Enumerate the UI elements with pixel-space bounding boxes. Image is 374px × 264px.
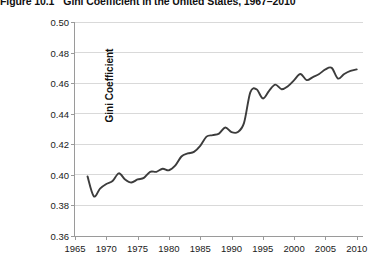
plot-area: Gini Coefficient 0.360.380.400.420.440.4… — [74, 22, 363, 237]
x-tick-label: 1995 — [252, 243, 273, 254]
x-tick-label: 2005 — [315, 243, 336, 254]
x-tick-label: 1970 — [96, 243, 117, 254]
y-tick-label: 0.48 — [51, 47, 70, 58]
x-tick-mark — [106, 236, 107, 240]
figure-number: Figure 10.1 — [0, 0, 54, 7]
x-tick-label: 2010 — [346, 243, 367, 254]
y-tick-label: 0.40 — [51, 169, 70, 180]
y-tick-mark — [71, 22, 75, 23]
x-tick-mark — [75, 236, 76, 240]
x-tick-mark — [169, 236, 170, 240]
x-tick-label: 1990 — [221, 243, 242, 254]
y-tick-mark — [71, 53, 75, 54]
y-tick-label: 0.44 — [51, 108, 70, 119]
series-layer — [75, 22, 363, 236]
x-tick-mark — [294, 236, 295, 240]
figure-container: Figure 10.1Gini Coefficient in the Unite… — [0, 0, 374, 264]
figure-title: Figure 10.1Gini Coefficient in the Unite… — [0, 0, 374, 9]
x-tick-mark — [138, 236, 139, 240]
y-tick-mark — [71, 83, 75, 84]
x-tick-label: 2000 — [284, 243, 305, 254]
y-axis-title: Gini Coefficient — [104, 36, 115, 136]
x-tick-label: 1980 — [158, 243, 179, 254]
x-tick-label: 1975 — [127, 243, 148, 254]
x-tick-label: 1985 — [190, 243, 211, 254]
y-tick-mark — [71, 205, 75, 206]
x-tick-mark — [325, 236, 326, 240]
x-tick-mark — [357, 236, 358, 240]
x-tick-label: 1965 — [64, 243, 85, 254]
y-tick-label: 0.46 — [51, 78, 70, 89]
y-tick-mark — [71, 144, 75, 145]
gini-coefficient-line — [88, 67, 357, 196]
y-tick-label: 0.50 — [51, 17, 70, 28]
x-tick-mark — [200, 236, 201, 240]
y-tick-mark — [71, 114, 75, 115]
y-tick-mark — [71, 175, 75, 176]
y-tick-label: 0.36 — [51, 231, 70, 242]
y-tick-label: 0.38 — [51, 200, 70, 211]
y-tick-label: 0.42 — [51, 139, 70, 150]
x-tick-mark — [263, 236, 264, 240]
x-tick-mark — [232, 236, 233, 240]
figure-title-text: Gini Coefficient in the United States, 1… — [63, 0, 295, 7]
